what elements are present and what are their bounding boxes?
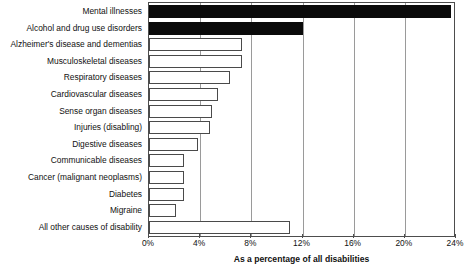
bar-row [149, 203, 456, 219]
bar-row [149, 187, 456, 203]
x-tick-label: 16% [344, 238, 361, 248]
bar [149, 204, 176, 217]
bar [149, 38, 242, 51]
bar-row [149, 54, 456, 70]
bar [149, 121, 210, 134]
bar-row [149, 70, 456, 86]
bar [149, 188, 184, 201]
bar-row [149, 4, 456, 20]
category-label: Migraine [0, 202, 145, 218]
bar-row [149, 21, 456, 37]
x-axis-ticks: 0%4%8%12%16%20%24% [148, 238, 455, 250]
bar-row [149, 120, 456, 136]
bar [149, 55, 242, 68]
bar [149, 71, 230, 84]
category-label: Alcohol and drug use disorders [0, 20, 145, 36]
bar-row [149, 87, 456, 103]
category-label: Cancer (malignant neoplasms) [0, 169, 145, 185]
bar-row [149, 37, 456, 53]
bar [149, 171, 184, 184]
x-tick-label: 12% [293, 238, 310, 248]
category-label: Alzheimer's disease and dementias [0, 36, 145, 52]
x-tick-label: 0% [142, 238, 154, 248]
bar-rows [149, 3, 454, 236]
plot-area [148, 2, 455, 237]
category-label: Injuries (disabling) [0, 119, 145, 135]
category-label: Sense organ diseases [0, 103, 145, 119]
bar [149, 22, 303, 35]
category-label: Digestive diseases [0, 136, 145, 152]
category-label: Diabetes [0, 186, 145, 202]
bar-row [149, 153, 456, 169]
bar [149, 221, 290, 234]
category-label: All other causes of disability [0, 219, 145, 235]
x-tick-label: 4% [193, 238, 205, 248]
bar-chart: Mental illnessesAlcohol and drug use dis… [0, 0, 471, 273]
x-tick-label: 24% [447, 238, 464, 248]
category-label: Respiratory diseases [0, 69, 145, 85]
x-axis-title: As a percentage of all disabilities [148, 254, 455, 264]
bar [149, 105, 212, 118]
bar-row [149, 170, 456, 186]
x-tick-label: 8% [244, 238, 256, 248]
bar-row [149, 104, 456, 120]
category-label: Mental illnesses [0, 3, 145, 19]
bar [149, 138, 198, 151]
category-label: Communicable diseases [0, 152, 145, 168]
category-label: Cardiovascular diseases [0, 86, 145, 102]
x-tick-label: 20% [395, 238, 412, 248]
bar-row [149, 137, 456, 153]
bar [149, 154, 184, 167]
bar [149, 88, 218, 101]
bar-row [149, 220, 456, 236]
bar [149, 5, 451, 18]
category-label: Musculoskeletal diseases [0, 53, 145, 69]
